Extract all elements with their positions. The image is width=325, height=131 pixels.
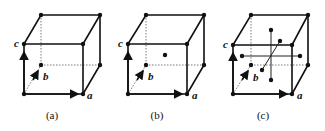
- c-axis-label: c: [118, 37, 123, 49]
- panel-c-face-centered-cube: c b a (c): [223, 13, 310, 122]
- c-axis-label: c: [14, 37, 19, 49]
- b-axis-arrow: [242, 71, 248, 80]
- b-axis-arrow: [137, 71, 143, 80]
- b-axis-arrow: [33, 71, 38, 80]
- a-axis-label: a: [87, 89, 93, 101]
- caption-b: (b): [151, 109, 164, 122]
- a-axis-label: a: [192, 89, 198, 101]
- unit-cell-figure: c b a (a) c b a (b): [0, 0, 325, 131]
- a-axis-label: a: [297, 89, 303, 101]
- panel-b-body-centered-cube: c b a (b): [118, 13, 206, 122]
- b-axis-label: b: [253, 71, 259, 83]
- b-axis-label: b: [43, 70, 49, 82]
- caption-c: (c): [257, 109, 270, 122]
- corner-atoms: [22, 13, 102, 96]
- c-axis-label: c: [223, 38, 228, 50]
- body-center-atom: [163, 53, 167, 57]
- caption-a: (a): [46, 109, 59, 122]
- panel-a-primitive-cube: c b a (a): [14, 13, 102, 122]
- b-axis-label: b: [148, 70, 154, 82]
